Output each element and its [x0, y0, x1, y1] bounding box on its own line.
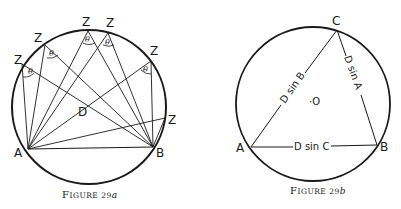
side-cb-lower: [361, 95, 377, 145]
label-z5: Z: [150, 44, 158, 58]
label-theta5: θ: [143, 65, 148, 74]
side-ac-lower: [251, 105, 281, 147]
label-b-b: B: [380, 140, 388, 154]
diagram-canvas: Z Z Z Z Z Z θ θ θ θ θ D A B FIGURE 29a C…: [0, 0, 401, 209]
chord-ab: [28, 147, 153, 149]
side-ac-upper: [305, 30, 337, 73]
side-ab-right: [331, 145, 377, 146]
caption-29b: FIGURE 29b: [290, 185, 346, 196]
label-a-b: A: [236, 141, 245, 155]
label-theta1: θ: [28, 67, 33, 76]
label-b: B: [156, 146, 164, 160]
label-theta2: θ: [49, 49, 54, 58]
label-theta4: θ: [105, 38, 110, 47]
label-z1: Z: [14, 53, 22, 67]
label-z2: Z: [34, 31, 42, 45]
label-d-sin-b: D sin B: [278, 70, 307, 105]
label-theta3: θ: [85, 35, 90, 44]
figure-29a: [12, 30, 166, 184]
lines-from-a: [22, 31, 165, 149]
label-d: D: [78, 105, 87, 119]
label-a: A: [14, 146, 23, 160]
label-o: ·O: [309, 96, 320, 107]
label-d-sin-a: D sin A: [342, 54, 364, 91]
label-c: C: [332, 14, 340, 28]
label-z4: Z: [106, 16, 114, 30]
lines-from-b: [22, 31, 165, 147]
caption-29a: FIGURE 29a: [62, 189, 118, 200]
label-z3: Z: [82, 15, 90, 29]
figure-29b-labels: C A B ·O D sin B D sin A D sin C FIGURE …: [236, 14, 388, 196]
label-z6: Z: [168, 113, 176, 127]
label-d-sin-c: D sin C: [294, 141, 329, 152]
